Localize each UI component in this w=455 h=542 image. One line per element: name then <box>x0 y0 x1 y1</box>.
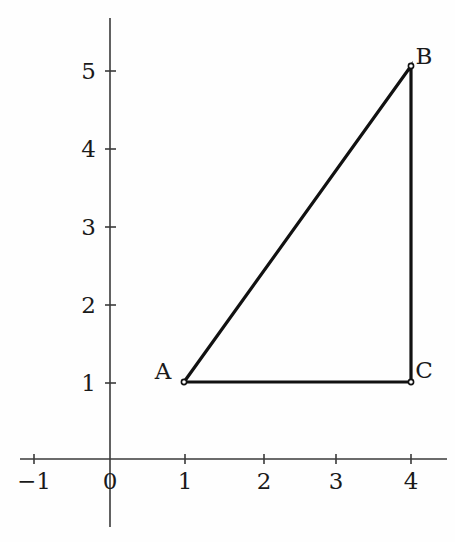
triangle-abc <box>184 66 411 382</box>
y-tick-label-4: 4 <box>81 138 96 161</box>
x-tick-label-2: 2 <box>257 470 272 493</box>
x-tick-label-3: 3 <box>329 470 344 493</box>
plot-canvas <box>0 0 455 542</box>
vertex-marker-b <box>408 63 413 68</box>
vertex-label-a: A <box>155 360 172 383</box>
y-tick-label-3: 3 <box>81 216 96 239</box>
x-tick-label-0: 0 <box>103 470 118 493</box>
triangle-plot-figure: −1 0 1 2 3 4 5 4 3 2 1 A B C <box>0 0 455 542</box>
vertex-label-c: C <box>415 359 433 382</box>
y-tick-label-5: 5 <box>81 60 96 83</box>
x-tick-label-1: 1 <box>178 470 193 493</box>
x-tick-label-4: 4 <box>404 470 419 493</box>
vertex-label-b: B <box>416 45 433 68</box>
vertex-marker-a <box>181 379 186 384</box>
x-tick-label--1: −1 <box>17 470 51 493</box>
vertex-marker-c <box>408 379 413 384</box>
y-tick-label-1: 1 <box>81 372 96 395</box>
y-tick-label-2: 2 <box>81 294 96 317</box>
